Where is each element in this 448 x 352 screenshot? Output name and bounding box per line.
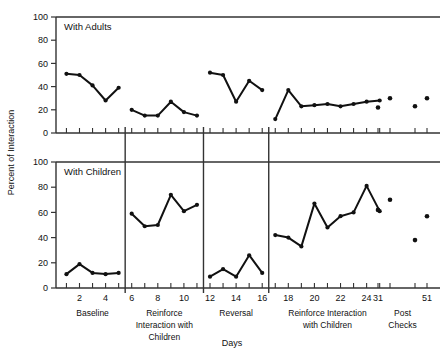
x-tick-label: 4 — [103, 293, 108, 303]
upper-data-point — [195, 114, 199, 118]
lower-data-point — [195, 203, 199, 207]
x-tick-label: 16 — [257, 293, 267, 303]
lower-postcheck-point — [425, 214, 430, 219]
phase-label: Post — [394, 308, 412, 318]
phase-label: Reinforce Interaction — [288, 308, 367, 318]
upper-data-point — [378, 98, 382, 102]
x-tick-label: 22 — [336, 293, 346, 303]
lower-series-line — [210, 255, 262, 277]
phase-label: Children — [148, 332, 180, 342]
upper-data-point — [365, 100, 369, 104]
lower-series-line — [275, 186, 379, 247]
x-tick-label: 24 — [362, 293, 372, 303]
x-tick-label: 10 — [179, 293, 189, 303]
lower-data-point — [64, 272, 68, 276]
lower-postcheck-point — [388, 198, 393, 203]
lower-panel-y-tick-label: 60 — [38, 208, 48, 218]
lower-data-point — [169, 193, 173, 197]
upper-data-point — [103, 98, 107, 102]
upper-data-point — [299, 104, 303, 108]
x-tick-label: 18 — [283, 293, 293, 303]
x-tick-label: 31 — [373, 293, 383, 303]
lower-data-point — [221, 267, 225, 271]
upper-data-point — [325, 102, 329, 106]
lower-data-point — [351, 210, 355, 214]
lower-data-point — [103, 272, 107, 276]
x-tick-label: 8 — [155, 293, 160, 303]
upper-panel-y-tick-label: 0 — [43, 128, 48, 138]
phase-label: Reinforce — [146, 308, 183, 318]
upper-data-point — [338, 104, 342, 108]
lower-data-point — [182, 209, 186, 213]
phase-label: Reversal — [219, 308, 253, 318]
chart-canvas: 0204060801000204060801002468101214161820… — [0, 0, 448, 352]
phase-label: Checks — [388, 320, 416, 330]
lower-panel-label: With Children — [64, 166, 121, 177]
lower-data-point — [299, 244, 303, 248]
upper-data-point — [221, 73, 225, 77]
upper-data-point — [169, 100, 173, 104]
upper-data-point — [64, 72, 68, 76]
figure-container: 0204060801000204060801002468101214161820… — [0, 0, 448, 352]
upper-data-point — [90, 83, 94, 87]
lower-data-point — [130, 212, 134, 216]
upper-postcheck-point — [425, 96, 430, 101]
x-axis-title: Days — [222, 338, 243, 348]
lower-data-point — [143, 224, 147, 228]
x-tick-label: 12 — [205, 293, 215, 303]
upper-postcheck-point — [413, 104, 418, 109]
upper-data-point — [143, 114, 147, 118]
x-tick-label: 6 — [129, 293, 134, 303]
lower-data-point — [208, 275, 212, 279]
upper-panel-y-tick-label: 60 — [38, 59, 48, 69]
lower-data-point — [77, 262, 81, 266]
upper-series-line — [210, 73, 262, 102]
lower-data-point — [156, 223, 160, 227]
upper-data-point — [312, 103, 316, 107]
x-tick-label: 2 — [77, 293, 82, 303]
upper-data-point — [234, 100, 238, 104]
lower-data-point — [273, 233, 277, 237]
upper-panel-y-tick-label: 100 — [33, 12, 48, 22]
upper-postcheck-point — [388, 96, 393, 101]
upper-data-point — [117, 86, 121, 90]
lower-panel-y-tick-label: 100 — [33, 157, 48, 167]
upper-data-point — [351, 102, 355, 106]
lower-data-point — [90, 271, 94, 275]
lower-panel-y-tick-label: 20 — [38, 258, 48, 268]
upper-data-point — [260, 88, 264, 92]
upper-series-line — [132, 102, 197, 116]
upper-data-point — [273, 117, 277, 121]
upper-panel-label: With Adults — [64, 21, 112, 32]
upper-panel-y-tick-label: 80 — [38, 35, 48, 45]
x-tick-label: 51 — [422, 293, 432, 303]
upper-data-point — [208, 71, 212, 75]
phase-label: Baseline — [76, 308, 109, 318]
lower-data-point — [117, 271, 121, 275]
upper-panel-y-tick-label: 40 — [38, 82, 48, 92]
upper-data-point — [182, 110, 186, 114]
x-tick-label: 20 — [309, 293, 319, 303]
lower-postcheck-point — [413, 238, 418, 243]
upper-data-point — [247, 79, 251, 83]
lower-data-point — [365, 184, 369, 188]
upper-data-point — [286, 88, 290, 92]
lower-data-point — [325, 225, 329, 229]
lower-data-point — [312, 201, 316, 205]
upper-data-point — [156, 114, 160, 118]
lower-data-point — [247, 253, 251, 257]
lower-panel-y-tick-label: 80 — [38, 182, 48, 192]
lower-data-point — [286, 236, 290, 240]
lower-panel-y-tick-label: 0 — [43, 283, 48, 293]
upper-postcheck-point — [376, 105, 381, 110]
upper-data-point — [130, 108, 134, 112]
lower-data-point — [260, 271, 264, 275]
lower-series-line — [132, 195, 197, 227]
y-axis-title: Percent of Interaction — [6, 110, 16, 196]
lower-data-point — [338, 214, 342, 218]
upper-data-point — [77, 73, 81, 77]
lower-data-point — [234, 275, 238, 279]
phase-label: with Children — [302, 320, 352, 330]
upper-panel-y-tick-label: 20 — [38, 105, 48, 115]
phase-label: Interaction with — [136, 320, 193, 330]
